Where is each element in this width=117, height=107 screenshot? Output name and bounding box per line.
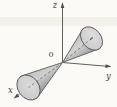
figure-background — [0, 0, 117, 107]
figure-canvas: z 0 y x — [0, 0, 117, 107]
double-cone-diagram: z 0 y x — [0, 0, 117, 107]
y-axis-label: y — [105, 71, 111, 81]
z-axis-label: z — [52, 0, 58, 10]
x-axis-label: x — [8, 85, 13, 95]
origin-label: 0 — [48, 50, 53, 59]
scan-artifact-band — [0, 17, 117, 26]
